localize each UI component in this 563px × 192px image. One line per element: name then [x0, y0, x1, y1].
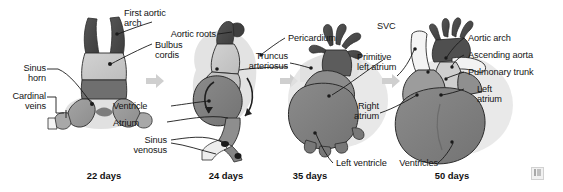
label-primitive-left-atrium: Primitive left atrium: [357, 52, 396, 73]
label-first-aortic-arch: First aortic arch: [124, 8, 166, 29]
label-aortic-arch: Aortic arch: [468, 33, 511, 43]
stage-caption-22-days: 22 days: [76, 170, 132, 181]
diagram-24-days: [193, 21, 256, 162]
source-watermark: [531, 167, 544, 180]
label-right-atrium: Right atrium: [333, 101, 379, 122]
label-cardinal-veins: Cardinal veins: [0, 91, 46, 112]
label-svc: SVC: [377, 21, 396, 31]
arrow-22-to-24: [146, 74, 164, 88]
label-ventricles: Ventricles: [378, 158, 438, 168]
label-atrium: Atrium: [113, 118, 139, 128]
label-bulbus-cordis: Bulbus cordis: [155, 40, 183, 61]
label-left-atrium: Left atrium: [477, 84, 502, 105]
stage-caption-50-days: 50 days: [424, 170, 480, 181]
diagram-22-days: [48, 17, 152, 129]
label-truncus-arteriosus: Truncus arteriosus: [234, 51, 288, 72]
label-pulmonary-trunk: Pulmonary trunk: [468, 67, 533, 77]
stage-caption-35-days: 35 days: [282, 170, 338, 181]
label-aortic-roots: Aortic roots: [152, 29, 216, 39]
label-pericardium: Pericardium: [288, 33, 336, 43]
diagram-35-days: [288, 24, 388, 157]
embryonic-heart-development-figure: First aortic arch Bulbus cordis Sinus ho…: [0, 0, 563, 192]
label-sinus-horn: Sinus horn: [0, 63, 46, 84]
stage-caption-24-days: 24 days: [198, 170, 254, 181]
label-ascending-aorta: Ascending aorta: [468, 50, 533, 60]
label-sinus-venosus: Sinus venosus: [103, 135, 167, 156]
label-ventricle: Ventricle: [113, 101, 147, 111]
